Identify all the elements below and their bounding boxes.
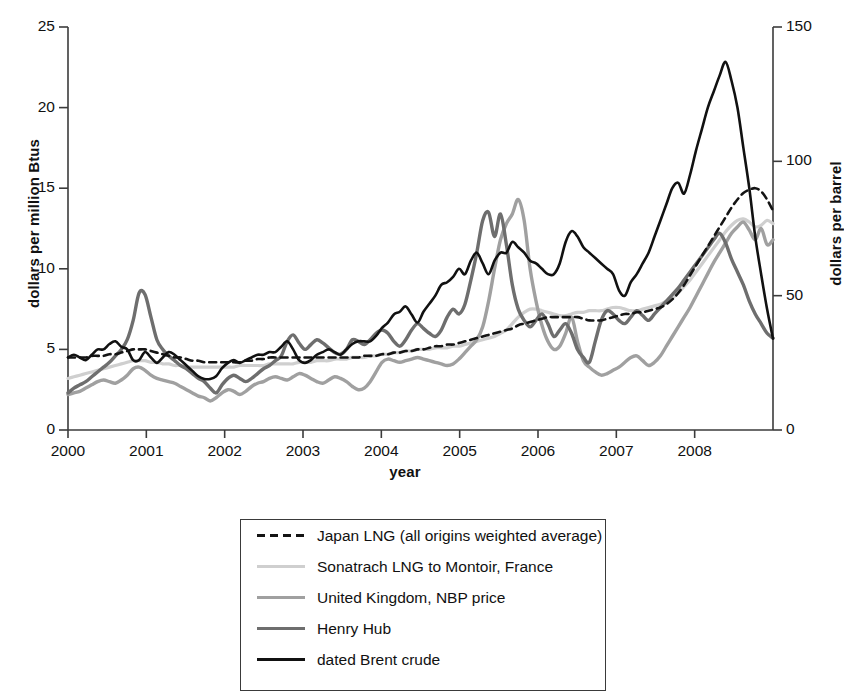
legend-item: Japan LNG (all origins weighted average) xyxy=(241,520,605,551)
legend-item: United Kingdom, NBP price xyxy=(241,582,605,613)
y-tick-right: 100 xyxy=(786,151,826,169)
x-tick: 2002 xyxy=(195,442,255,460)
legend-swatch-brent-crude-icon xyxy=(257,653,305,667)
x-tick: 2006 xyxy=(508,442,568,460)
chart-legend: Japan LNG (all origins weighted average)… xyxy=(240,519,606,691)
x-tick: 2000 xyxy=(38,442,98,460)
y-tick-left: 25 xyxy=(21,17,55,35)
legend-item: Henry Hub xyxy=(241,613,605,644)
y-axis-left-title: dollars per million Btus xyxy=(25,109,42,339)
y-tick-right: 0 xyxy=(786,420,826,438)
y-tick-left: 5 xyxy=(21,339,55,357)
legend-label: Sonatrach LNG to Montoir, France xyxy=(317,559,553,575)
series-line xyxy=(68,62,773,379)
x-tick: 2004 xyxy=(351,442,411,460)
series-line xyxy=(68,188,773,362)
legend-label: dated Brent crude xyxy=(317,652,440,668)
legend-label: Henry Hub xyxy=(317,621,391,637)
legend-swatch-henry-hub-icon xyxy=(257,622,305,636)
x-tick: 2007 xyxy=(586,442,646,460)
x-tick: 2003 xyxy=(273,442,333,460)
y-tick-left: 10 xyxy=(21,259,55,277)
legend-swatch-japan-lng-icon xyxy=(257,529,305,543)
x-tick: 2005 xyxy=(430,442,490,460)
axis-lines xyxy=(59,27,782,438)
y-axis-right-title: dollars per barrel xyxy=(827,124,844,324)
legend-label: United Kingdom, NBP price xyxy=(317,590,505,606)
x-tick: 2008 xyxy=(665,442,725,460)
chart-figure: dollars per million Btus dollars per bar… xyxy=(0,0,844,695)
legend-item: Sonatrach LNG to Montoir, France xyxy=(241,551,605,582)
y-tick-left: 0 xyxy=(21,420,55,438)
x-axis-title: year xyxy=(325,463,485,480)
series-lines xyxy=(68,62,773,401)
legend-swatch-uk-nbp-icon xyxy=(257,591,305,605)
legend-item: dated Brent crude xyxy=(241,644,605,675)
y-tick-right: 50 xyxy=(786,286,826,304)
legend-label: Japan LNG (all origins weighted average) xyxy=(317,528,602,544)
y-tick-left: 20 xyxy=(21,98,55,116)
x-tick: 2001 xyxy=(116,442,176,460)
y-tick-left: 15 xyxy=(21,178,55,196)
legend-swatch-sonatrach-lng-icon xyxy=(257,560,305,574)
y-tick-right: 150 xyxy=(786,17,826,35)
plot-area xyxy=(0,0,844,500)
